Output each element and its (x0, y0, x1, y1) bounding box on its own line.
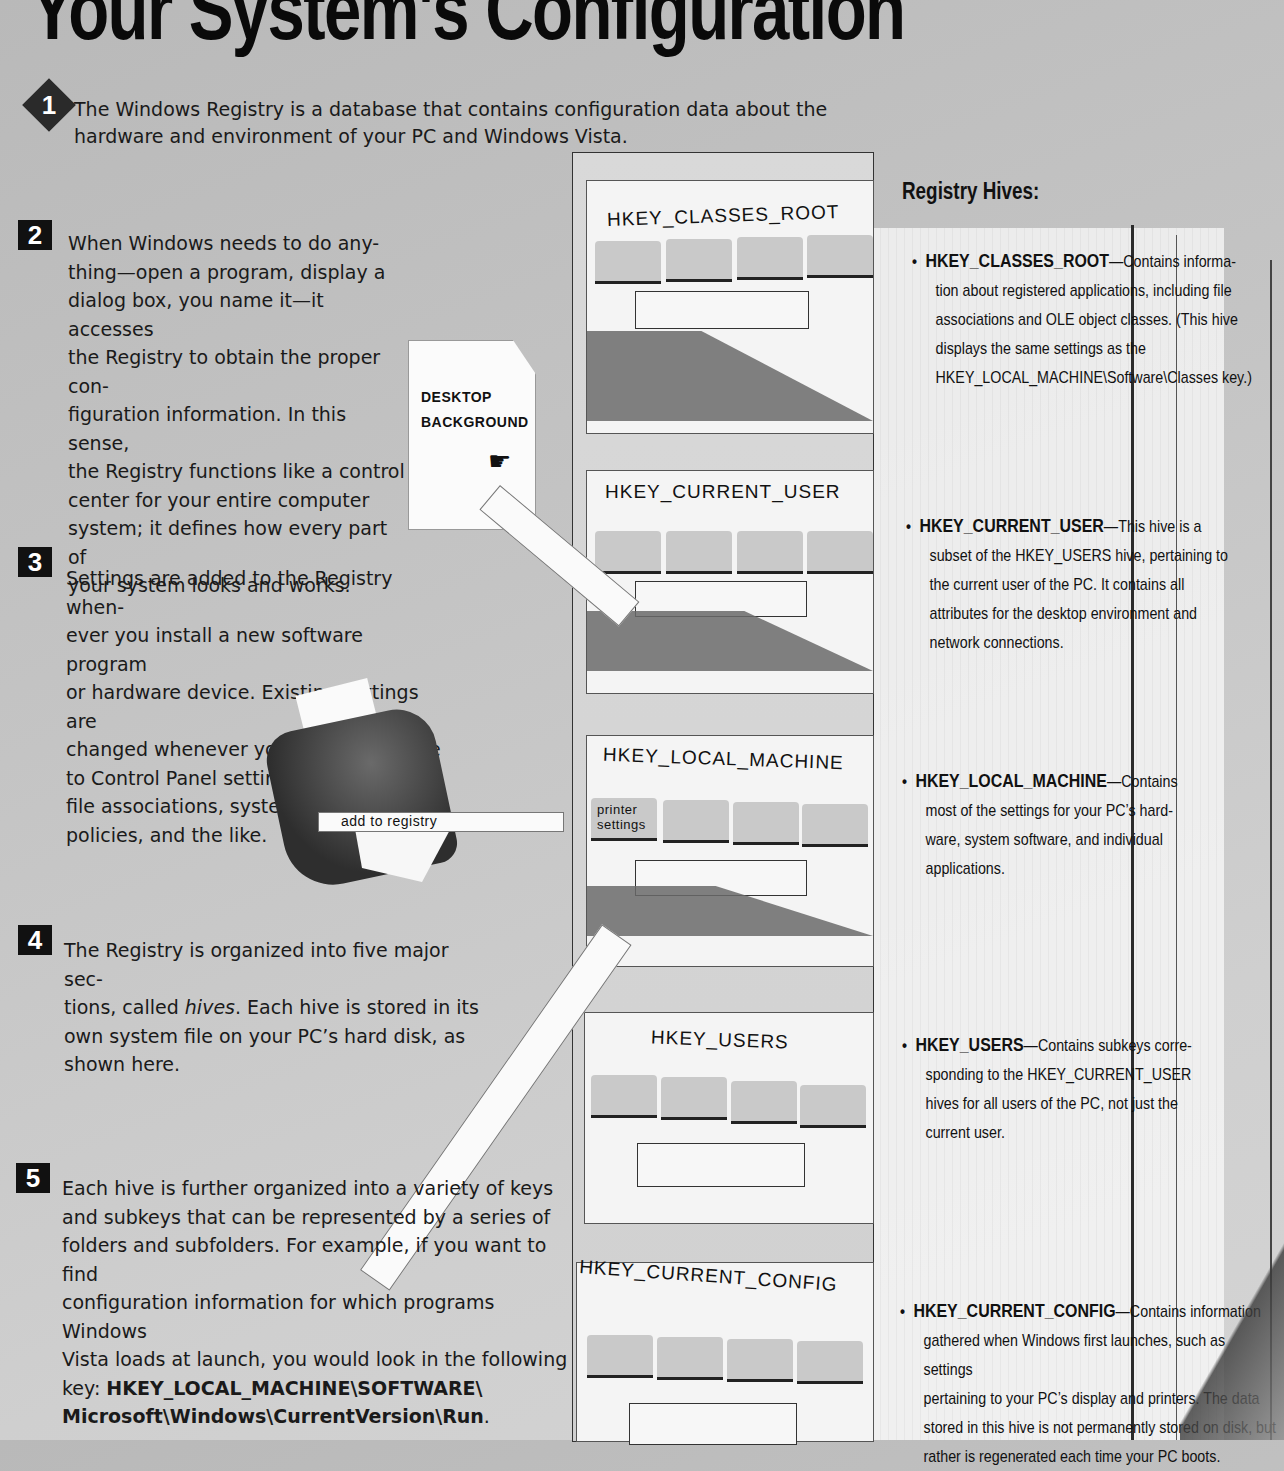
folder-icon (727, 1339, 793, 1382)
folder-icon (737, 531, 803, 574)
drawer-label: HKEY_CLASSES_ROOT (607, 201, 840, 231)
folder-icon (800, 1085, 866, 1128)
folder-icon (595, 531, 661, 574)
step-3-badge: 3 (18, 547, 52, 577)
folder-icon (733, 802, 799, 845)
folder-icon (731, 1081, 797, 1124)
bullet-icon: • (902, 772, 907, 791)
step-4-text: The Registry is organized into five majo… (64, 936, 484, 1079)
folder-icon (666, 531, 732, 574)
folder-icon (595, 241, 661, 284)
drawer-shadow (587, 331, 873, 421)
bullet-icon: • (906, 517, 911, 536)
step-1-badge: 1 (22, 78, 76, 132)
registry-key-path: HKEY_LOCAL_MACHINE\SOFTWARE\ (106, 1377, 482, 1399)
folder-icon (802, 804, 868, 847)
drawer-hkey-local-machine[interactable]: HKEY_LOCAL_MACHINE printer settings (586, 735, 874, 967)
registry-key-line: key: HKEY_LOCAL_MACHINE\SOFTWARE\ (62, 1374, 582, 1403)
drawer-hkey-current-config[interactable]: HKEY_CURRENT_CONFIG (576, 1262, 874, 1442)
folder-printer-settings[interactable]: printer settings (591, 798, 657, 841)
folder-label: printer settings (597, 802, 646, 832)
bullet-icon: • (900, 1302, 905, 1321)
drawer-shadow (587, 611, 873, 671)
pointing-hand-icon: ☛ (488, 446, 511, 476)
folder-icon (657, 1337, 723, 1380)
step-2-badge: 2 (18, 220, 52, 250)
registry-key-line: Microsoft\Windows\CurrentVersion\Run. (62, 1402, 582, 1431)
note-label: DESKTOP BACKGROUND (421, 385, 529, 435)
step-5-badge: 5 (16, 1163, 50, 1193)
drawer-handle[interactable] (635, 291, 809, 329)
hive-item-classes-root: •HKEY_CLASSES_ROOT—Contains informa- tio… (912, 246, 1265, 392)
folder-icon (807, 531, 873, 574)
hives-panel-title: Registry Hives: (902, 178, 1039, 205)
registry-key-path: Microsoft\Windows\CurrentVersion\Run (62, 1405, 484, 1427)
folder-icon (737, 237, 803, 280)
step-5-text: Each hive is further organized into a va… (62, 1174, 582, 1431)
folder-icon (807, 235, 873, 278)
folder-icon (591, 1075, 657, 1118)
hive-item-local-machine: •HKEY_LOCAL_MACHINE—Contains most of the… (902, 766, 1255, 883)
bullet-icon: • (912, 252, 917, 271)
folder-icon (663, 800, 729, 843)
folder-icon (797, 1341, 863, 1384)
step-4-badge: 4 (18, 925, 52, 955)
drawer-hkey-classes-root[interactable]: HKEY_CLASSES_ROOT (586, 180, 874, 434)
corner-shadow (1180, 1240, 1284, 1440)
hive-item-users: •HKEY_USERS—Contains subkeys corre- spon… (902, 1030, 1255, 1147)
hive-item-current-user: •HKEY_CURRENT_USER—This hive is a subset… (906, 511, 1259, 657)
step-number: 1 (22, 90, 76, 121)
bullet-icon: • (902, 1036, 907, 1055)
step-2-text: When Windows needs to do any- thing—open… (68, 229, 408, 600)
drawer-handle[interactable] (637, 1143, 805, 1187)
drawer-shadow (587, 886, 873, 936)
drawer-handle[interactable] (629, 1403, 797, 1445)
add-to-registry-strip: add to registry (318, 812, 564, 832)
folder-icon (666, 239, 732, 282)
drawer-label: HKEY_USERS (651, 1027, 789, 1054)
folder-icon (587, 1335, 653, 1378)
page-title: Your System's Configuration (30, 0, 905, 59)
drawer-hkey-users[interactable]: HKEY_USERS (584, 1012, 874, 1224)
drawer-label: HKEY_CURRENT_CONFIG (579, 1256, 839, 1296)
step-1-text: The Windows Registry is a database that … (74, 96, 894, 150)
drawer-hkey-current-user[interactable]: HKEY_CURRENT_USER (586, 470, 874, 694)
drawer-label: HKEY_CURRENT_USER (605, 481, 841, 503)
folder-icon (661, 1077, 727, 1120)
strip-label: add to registry (341, 813, 437, 829)
drawer-label: HKEY_LOCAL_MACHINE (603, 744, 844, 774)
printer-illustration (272, 682, 472, 892)
step-4-line-2: tions, called hives. Each hive is stored… (64, 993, 484, 1022)
